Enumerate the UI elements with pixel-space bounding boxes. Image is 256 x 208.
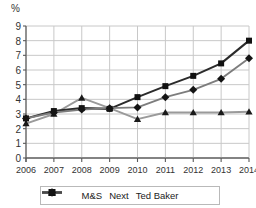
legend-label-2: Ted Baker bbox=[136, 190, 179, 201]
legend-marker-diamond-icon bbox=[41, 187, 63, 198]
chart-legend: M&S Next Ted Baker bbox=[40, 186, 220, 205]
legend-label-1: Next bbox=[109, 190, 129, 201]
legend-item-2: Ted Baker bbox=[136, 190, 179, 201]
legend-label-0: M&S bbox=[82, 190, 103, 201]
legend-item-1: Next bbox=[109, 190, 129, 201]
legend-item-0: M&S bbox=[82, 190, 103, 201]
line-chart: % 0123456789 200620072008200920102011201… bbox=[0, 0, 256, 208]
plot-area bbox=[0, 0, 256, 208]
